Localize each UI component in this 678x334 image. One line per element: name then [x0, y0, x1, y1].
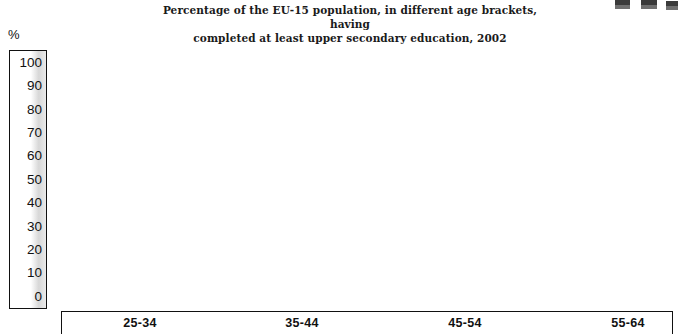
x-label-45-54: 45-54 — [385, 316, 545, 330]
x-label-55-64: 55-64 — [548, 316, 678, 330]
x-label-25-34: 25-34 — [60, 316, 220, 330]
chart-page: Percentage of the EU-15 population, in d… — [0, 0, 678, 334]
plot-area: 73.775.8♪♥70.168.4♪♥64.657.0♪♥56.243.0♪♥ — [0, 0, 678, 334]
x-label-35-44: 35-44 — [222, 316, 382, 330]
